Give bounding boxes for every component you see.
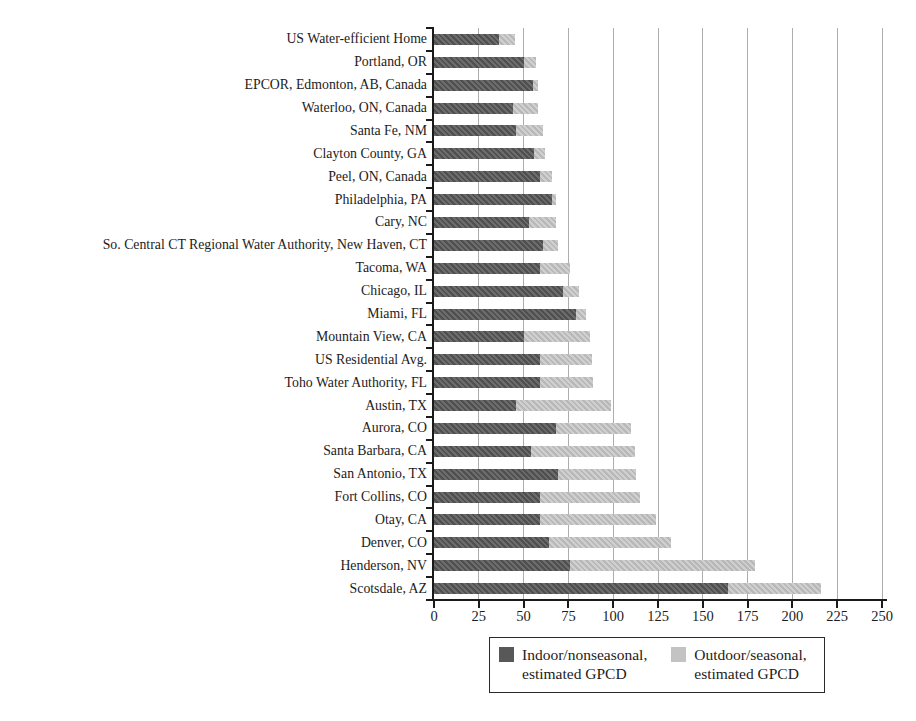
y-axis-tick: [426, 553, 432, 555]
y-axis-tick: [426, 393, 432, 395]
category-label: EPCOR, Edmonton, AB, Canada: [0, 78, 427, 92]
category-label: Mountain View, CA: [0, 330, 427, 344]
gridline: [882, 28, 883, 600]
bar-row: [434, 446, 635, 457]
bar-indoor-segment: [434, 514, 540, 525]
x-tick-label: 150: [681, 608, 725, 625]
bar-outdoor-segment: [534, 148, 545, 159]
bar-outdoor-segment: [513, 103, 538, 114]
x-tick-label: 100: [591, 608, 635, 625]
chart: US Water-efficient HomePortland, OREPCOR…: [0, 0, 916, 721]
x-axis-tick: [747, 601, 749, 608]
x-axis-tick: [567, 601, 569, 608]
bar-row: [434, 469, 636, 480]
bar-indoor-segment: [434, 423, 556, 434]
bar-row: [434, 103, 538, 114]
x-axis-tick: [478, 601, 480, 608]
bar-outdoor-segment: [516, 400, 611, 411]
gridline: [747, 28, 748, 600]
category-label: San Antonio, TX: [0, 467, 427, 481]
bar-outdoor-segment: [563, 286, 579, 297]
y-axis-tick: [426, 119, 432, 121]
x-axis-tick: [702, 601, 704, 608]
y-axis-tick: [426, 439, 432, 441]
bar-row: [434, 514, 656, 525]
bar-row: [434, 148, 545, 159]
bar-row: [434, 560, 755, 571]
bar-row: [434, 286, 579, 297]
indoor-swatch-icon: [499, 647, 514, 662]
bar-indoor-segment: [434, 57, 524, 68]
bar-outdoor-segment: [543, 240, 557, 251]
bar-outdoor-segment: [549, 537, 671, 548]
category-label: Fort Collins, CO: [0, 490, 427, 504]
x-tick-label: 250: [860, 608, 904, 625]
bar-outdoor-segment: [540, 377, 594, 388]
y-axis-tick: [426, 27, 432, 29]
bar-indoor-segment: [434, 492, 540, 503]
bar-indoor-segment: [434, 560, 570, 571]
bar-outdoor-segment: [558, 469, 637, 480]
legend-label-indoor: Indoor/nonseasonal,estimated GPCD: [522, 645, 647, 683]
category-label: Santa Fe, NM: [0, 124, 427, 138]
y-axis-tick: [426, 141, 432, 143]
bar-outdoor-segment: [540, 492, 640, 503]
outdoor-swatch-icon: [671, 647, 686, 662]
bar-outdoor-segment: [529, 217, 556, 228]
y-axis-tick: [426, 256, 432, 258]
bar-outdoor-segment: [533, 80, 538, 91]
bar-indoor-segment: [434, 217, 529, 228]
legend-entry-outdoor: Outdoor/seasonal,estimated GPCD: [671, 645, 806, 683]
bar-indoor-segment: [434, 263, 540, 274]
bar-row: [434, 34, 515, 45]
y-axis-tick: [426, 302, 432, 304]
bar-outdoor-segment: [728, 583, 821, 594]
x-tick-label: 200: [770, 608, 814, 625]
bar-outdoor-segment: [570, 560, 755, 571]
category-label: Santa Barbara, CA: [0, 444, 427, 458]
bar-indoor-segment: [434, 286, 563, 297]
bar-indoor-segment: [434, 446, 531, 457]
gridline: [658, 28, 659, 600]
bar-outdoor-segment: [524, 57, 537, 68]
x-tick-label: 25: [457, 608, 501, 625]
category-label: Austin, TX: [0, 399, 427, 413]
bar-outdoor-segment: [540, 263, 570, 274]
bar-row: [434, 240, 558, 251]
category-label: Cary, NC: [0, 215, 427, 229]
y-axis-tick: [426, 507, 432, 509]
gridline: [792, 28, 793, 600]
category-label: Denver, CO: [0, 536, 427, 550]
bar-indoor-segment: [434, 171, 540, 182]
x-axis-tick: [433, 601, 435, 608]
bar-outdoor-segment: [524, 331, 590, 342]
bar-outdoor-segment: [552, 194, 556, 205]
bar-outdoor-segment: [540, 514, 656, 525]
y-axis-tick: [426, 73, 432, 75]
bar-row: [434, 171, 552, 182]
y-axis-tick: [426, 347, 432, 349]
bar-row: [434, 354, 592, 365]
bar-indoor-segment: [434, 331, 524, 342]
x-axis-tick: [657, 601, 659, 608]
category-label: US Residential Avg.: [0, 353, 427, 367]
x-tick-label: 0: [412, 608, 456, 625]
category-label: Scotsdale, AZ: [0, 582, 427, 596]
bar-indoor-segment: [434, 103, 513, 114]
category-label: Clayton County, GA: [0, 147, 427, 161]
y-axis-tick: [426, 324, 432, 326]
category-label: Miami, FL: [0, 307, 427, 321]
category-label: Philadelphia, PA: [0, 193, 427, 207]
bar-row: [434, 217, 556, 228]
category-label: Otay, CA: [0, 513, 427, 527]
category-label: Aurora, CO: [0, 421, 427, 435]
bar-outdoor-segment: [556, 423, 631, 434]
legend: Indoor/nonseasonal,estimated GPCD Outdoo…: [489, 637, 825, 693]
bar-indoor-segment: [434, 148, 534, 159]
gridline: [837, 28, 838, 600]
x-axis-tick: [612, 601, 614, 608]
bar-row: [434, 537, 671, 548]
bar-outdoor-segment: [576, 309, 587, 320]
category-label: Chicago, IL: [0, 284, 427, 298]
bar-row: [434, 423, 631, 434]
